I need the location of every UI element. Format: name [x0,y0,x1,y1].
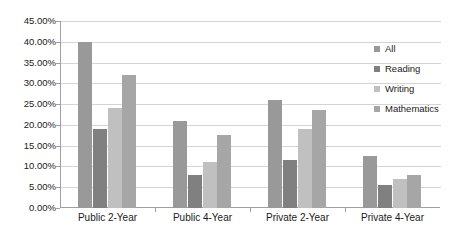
bar [283,160,297,208]
legend: AllReadingWritingMathematics [374,41,456,121]
bar-group [250,21,345,208]
y-axis-tick-label: 25.00% [0,99,56,109]
bar [203,162,217,208]
y-axis-tick-label: 20.00% [0,120,56,130]
legend-swatch-icon [374,86,380,92]
x-axis-tick-label: Private 2-Year [250,212,345,224]
y-axis-tick-label: 30.00% [0,78,56,88]
legend-item[interactable]: Reading [374,61,456,77]
bar [217,135,231,208]
y-axis-tick-label: 10.00% [0,161,56,171]
bar [78,42,92,208]
bar [363,156,377,208]
x-axis-tick-mark [345,208,346,212]
legend-swatch-icon [374,106,380,112]
bar-chart: 0.00%5.00%10.00%15.00%20.00%25.00%30.00%… [0,0,457,247]
bar [407,175,421,208]
bar [298,129,312,208]
bar [122,75,136,208]
bar [393,179,407,208]
y-axis-tick-label: 5.00% [0,182,56,192]
bar [268,100,282,208]
legend-item[interactable]: Mathematics [374,101,456,117]
y-axis-tick-label: 0.00% [0,203,56,213]
bar-group [60,21,155,208]
bar [108,108,122,208]
legend-swatch-icon [374,66,380,72]
x-axis-tick-label: Public 2-Year [60,212,155,224]
bar [93,129,107,208]
legend-item[interactable]: All [374,41,456,57]
x-axis-tick-label: Public 4-Year [155,212,250,224]
bar [378,185,392,208]
legend-item-label: All [385,44,396,54]
legend-item[interactable]: Writing [374,81,456,97]
x-axis-tick-label: Private 4-Year [345,212,440,224]
x-axis-tick-mark [155,208,156,212]
bar [173,121,187,208]
y-axis-tick-mark [56,208,60,209]
bar [312,110,326,208]
x-axis: Public 2-YearPublic 4-YearPrivate 2-Year… [60,212,440,232]
y-axis-tick-label: 40.00% [0,37,56,47]
y-axis-tick-label: 15.00% [0,141,56,151]
y-axis-tick-label: 45.00% [0,16,56,26]
bar [188,175,202,208]
legend-item-label: Reading [385,64,420,74]
y-axis-tick-label: 35.00% [0,58,56,68]
legend-item-label: Mathematics [385,104,439,114]
legend-swatch-icon [374,46,380,52]
bar-group [155,21,250,208]
x-axis-tick-mark [250,208,251,212]
legend-item-label: Writing [385,84,414,94]
